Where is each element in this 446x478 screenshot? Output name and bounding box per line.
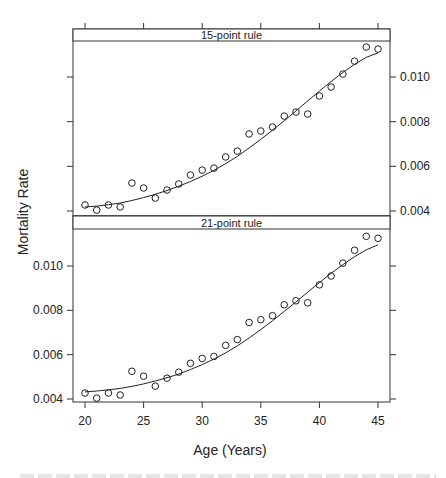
x-tick-label: 35 xyxy=(254,414,268,428)
strip-label: 21-point rule xyxy=(201,217,262,229)
data-point xyxy=(187,360,194,367)
panel-2: 21-point rule0.0040.0060.0080.010 xyxy=(33,216,396,406)
panel-1: 15-point rule0.0040.0060.0080.010 xyxy=(67,29,430,219)
data-point xyxy=(363,44,370,51)
data-point xyxy=(363,233,370,240)
data-point xyxy=(82,390,89,397)
data-point xyxy=(140,185,147,192)
panel-frame xyxy=(73,216,390,402)
y-tick-label: 0.008 xyxy=(400,115,430,129)
data-point xyxy=(234,336,241,343)
data-point xyxy=(152,383,159,390)
data-point xyxy=(304,299,311,306)
data-point xyxy=(140,373,147,380)
panel-frame xyxy=(73,29,390,216)
data-point xyxy=(293,109,300,116)
y-tick-label: 0.010 xyxy=(33,259,63,273)
data-point xyxy=(117,204,124,211)
x-axis-label: Age (Years) xyxy=(193,442,266,458)
cut-off-caption-text xyxy=(20,474,436,478)
strip-label: 15-point rule xyxy=(201,29,262,41)
trellis-chart: 15-point rule0.0040.0060.0080.01021-poin… xyxy=(0,0,446,478)
data-point xyxy=(375,46,382,53)
x-tick-label: 40 xyxy=(313,414,327,428)
data-point xyxy=(234,148,241,155)
data-point xyxy=(258,316,265,323)
data-point xyxy=(328,84,335,91)
data-point xyxy=(117,392,124,399)
data-point xyxy=(129,180,136,187)
panels: 15-point rule0.0040.0060.0080.01021-poin… xyxy=(33,29,430,407)
data-point xyxy=(351,58,358,65)
x-tick-label: 20 xyxy=(78,414,92,428)
data-point xyxy=(304,111,311,118)
data-point xyxy=(269,124,276,131)
data-point xyxy=(281,301,288,308)
data-point xyxy=(187,172,194,179)
data-point xyxy=(199,167,206,174)
y-tick-label: 0.010 xyxy=(400,70,430,84)
x-tick-label: 45 xyxy=(371,414,385,428)
x-tick-label: 25 xyxy=(137,414,151,428)
data-point xyxy=(246,319,253,326)
y-tick-label: 0.006 xyxy=(33,348,63,362)
x-tick-label: 30 xyxy=(196,414,210,428)
data-point xyxy=(269,312,276,319)
data-point xyxy=(375,235,382,242)
y-tick-label: 0.008 xyxy=(33,303,63,317)
data-point xyxy=(246,131,253,138)
data-point xyxy=(129,368,136,375)
data-point xyxy=(351,247,358,254)
data-point xyxy=(222,342,229,349)
y-tick-label: 0.006 xyxy=(400,159,430,173)
data-point xyxy=(293,298,300,305)
data-point xyxy=(105,390,112,397)
y-axis-label: Mortality Rate xyxy=(15,169,31,256)
data-point xyxy=(199,355,206,362)
data-point xyxy=(152,195,159,202)
data-point xyxy=(258,128,265,135)
data-point xyxy=(316,93,323,100)
data-point xyxy=(82,202,89,209)
data-point xyxy=(222,154,229,161)
data-point xyxy=(93,395,100,402)
data-point xyxy=(281,113,288,120)
y-tick-label: 0.004 xyxy=(400,204,430,218)
data-point xyxy=(93,207,100,214)
y-tick-label: 0.004 xyxy=(33,392,63,406)
